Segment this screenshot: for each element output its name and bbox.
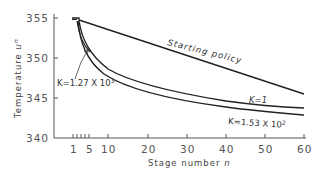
y-tick-label-340: 340 [26, 132, 49, 144]
x-tick-label-50: 50 [258, 143, 273, 155]
y-tick-label-355: 355 [26, 12, 49, 24]
x-tick-label-1: 1 [70, 143, 78, 155]
annotation-k-127e3: K=1.27 X 103 [57, 77, 115, 88]
x-axis-title: Stage number n [148, 158, 231, 168]
x-ticks [73, 134, 304, 138]
series-k-153e2 [78, 21, 304, 115]
x-tick-label-10: 10 [101, 143, 116, 155]
annotation-k1: K=1 [249, 95, 267, 105]
x-tick-label-60: 60 [297, 143, 312, 155]
annotation-k-153e2: K=1.53 X 102 [228, 115, 286, 130]
series-k-1 [79, 21, 304, 108]
y-axis-title: Temperature un [12, 38, 23, 119]
x-tick-label-30: 30 [180, 143, 195, 155]
x-tick-label-5: 5 [86, 143, 94, 155]
chart: 355 350 345 340 1 5 10 20 30 40 50 60 St… [0, 0, 326, 170]
y-tick-label-345: 345 [26, 92, 49, 104]
y-tick-label-350: 350 [26, 52, 49, 64]
x-tick-label-20: 20 [141, 143, 156, 155]
x-tick-label-40: 40 [219, 143, 234, 155]
